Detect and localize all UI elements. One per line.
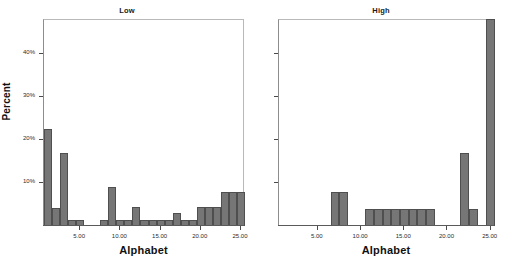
y-axis-tick <box>39 96 43 97</box>
figure-root: Low Percent 10%20%30%40% 5.0010.0015.002… <box>0 0 508 271</box>
x-axis-title-high: Alphabet <box>278 243 494 257</box>
histogram-bar <box>383 209 392 226</box>
y-axis-tick <box>274 139 278 140</box>
bars-low <box>44 20 243 226</box>
histogram-bar <box>108 187 116 226</box>
panel-high-title: High <box>254 6 508 16</box>
x-axis-tick <box>160 226 161 230</box>
x-axis-tick-label: 15.00 <box>145 232 175 240</box>
y-axis-tick <box>274 53 278 54</box>
histogram-bar <box>213 207 221 226</box>
y-axis-tick <box>274 182 278 183</box>
histogram-bar <box>374 209 383 226</box>
panel-low-title: Low <box>0 6 254 16</box>
histogram-bar <box>197 207 205 226</box>
x-axis-tick-label: 15.00 <box>388 232 418 240</box>
bars-high <box>279 20 493 226</box>
histogram-bar <box>237 192 245 227</box>
histogram-bar <box>426 209 435 226</box>
histogram-bar <box>391 209 400 226</box>
panel-high: High 5.0010.0015.0020.0025.00 Alphabet <box>254 0 508 271</box>
histogram-bar <box>486 19 495 226</box>
plot-area-high <box>278 19 494 226</box>
x-axis-tick <box>240 226 241 230</box>
histogram-bar <box>132 207 140 226</box>
x-axis-tick-label: 10.00 <box>345 232 375 240</box>
histogram-bar <box>44 129 52 226</box>
panel-low: Low Percent 10%20%30%40% 5.0010.0015.002… <box>0 0 254 271</box>
x-axis-tick <box>360 226 361 230</box>
histogram-bar <box>331 192 340 227</box>
x-axis-title-low: Alphabet <box>43 243 244 257</box>
x-axis-tick <box>200 226 201 230</box>
x-axis-tick <box>317 226 318 230</box>
x-axis-tick-label: 25.00 <box>475 232 505 240</box>
plot-area-low <box>43 19 244 226</box>
histogram-bar <box>469 209 478 226</box>
x-axis-tick <box>79 226 80 230</box>
x-axis-line-high <box>278 225 494 226</box>
x-axis-tick-label: 5.00 <box>64 232 94 240</box>
histogram-bar <box>417 209 426 226</box>
y-axis-tick-label: 30% <box>5 92 35 99</box>
x-axis-tick <box>490 226 491 230</box>
x-axis-tick-label: 25.00 <box>225 232 255 240</box>
y-axis-tick-label: 10% <box>5 178 35 185</box>
y-axis-tick <box>274 96 278 97</box>
x-axis-tick <box>119 226 120 230</box>
x-axis-tick <box>403 226 404 230</box>
histogram-bar <box>339 192 348 227</box>
x-axis-tick-label: 20.00 <box>431 232 461 240</box>
histogram-bar <box>460 153 469 226</box>
x-axis-tick-label: 10.00 <box>104 232 134 240</box>
y-axis-tick-label: 40% <box>5 49 35 56</box>
y-axis-tick-label: 20% <box>5 135 35 142</box>
y-axis-tick <box>39 182 43 183</box>
y-axis-tick <box>39 53 43 54</box>
x-axis-tick <box>446 226 447 230</box>
histogram-bar <box>205 207 213 226</box>
histogram-bar <box>365 209 374 226</box>
y-axis-title: Percent <box>1 72 12 132</box>
histogram-bar <box>60 153 68 226</box>
x-axis-line-low <box>43 225 244 226</box>
histogram-bar <box>52 208 60 226</box>
x-axis-tick-label: 5.00 <box>302 232 332 240</box>
histogram-bar <box>229 192 237 227</box>
histogram-bar <box>409 209 418 226</box>
y-axis-tick <box>39 139 43 140</box>
histogram-bar <box>400 209 409 226</box>
histogram-bar <box>221 192 229 227</box>
x-axis-tick-label: 20.00 <box>185 232 215 240</box>
